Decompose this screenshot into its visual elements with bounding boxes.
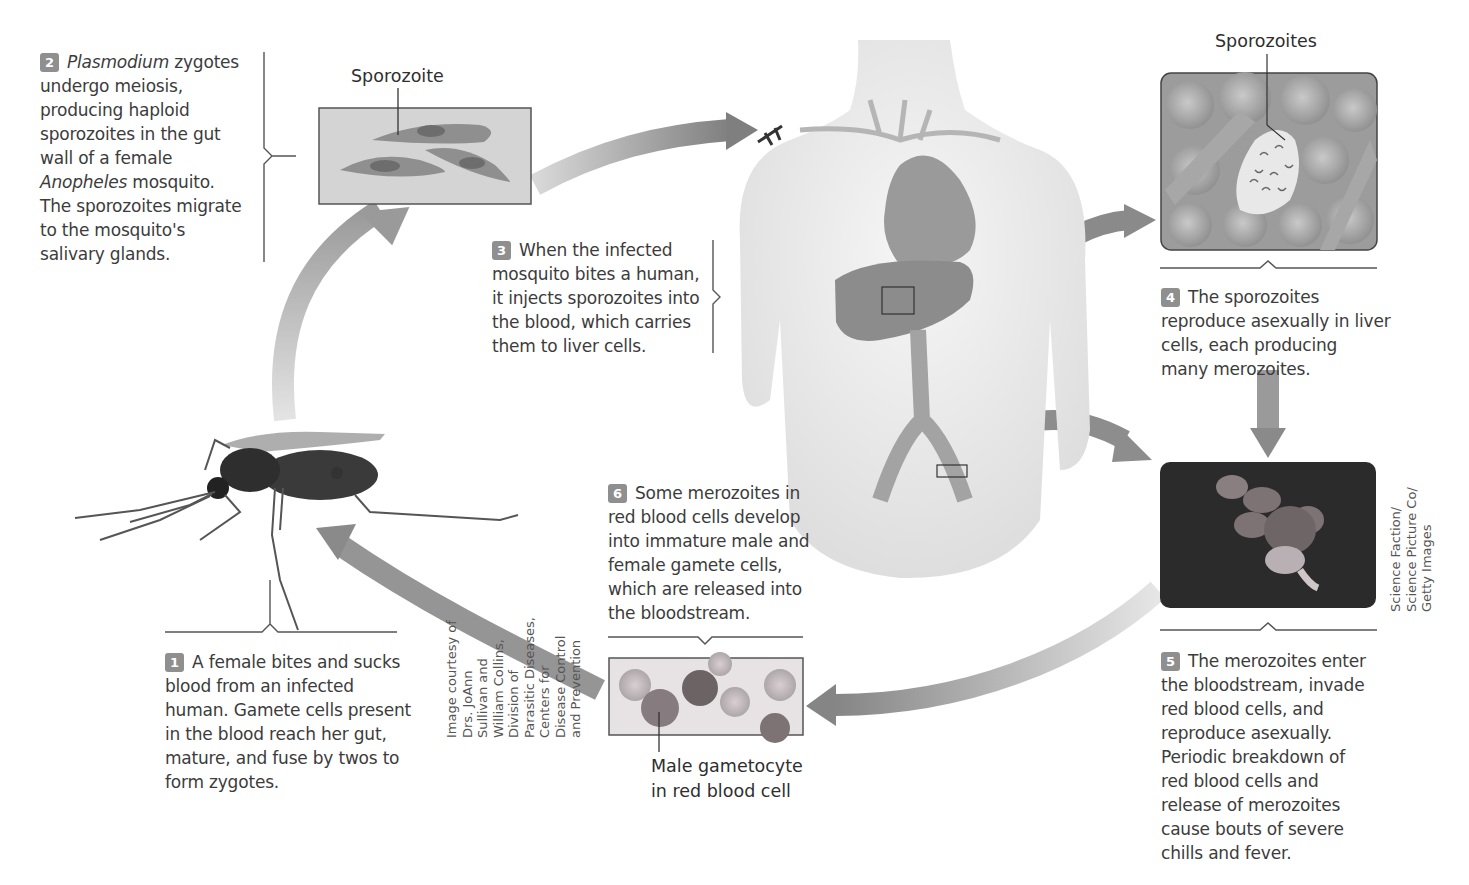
sporozoite-inset bbox=[319, 88, 531, 204]
credit-line: and Prevention bbox=[568, 617, 584, 738]
step-6-line-2: red blood cells develop bbox=[608, 505, 823, 529]
credit-line: Disease Control bbox=[553, 617, 569, 738]
credit-line: Science Picture Co/ bbox=[1404, 487, 1420, 612]
male-gametocyte-label-line2: in red blood cell bbox=[651, 779, 803, 804]
cdc-image-credit: Image courtesy of Drs. JoAnn Sullivan an… bbox=[444, 617, 584, 738]
step-6-description: 6Some merozoites in red blood cells deve… bbox=[608, 481, 823, 625]
small-mosquito-icon bbox=[758, 126, 782, 145]
step-1-line-4: in the blood reach her gut, bbox=[165, 722, 425, 746]
step-5-line-8: cause bouts of severe bbox=[1161, 817, 1391, 841]
getty-image-credit: Science Faction/ Science Picture Co/ Get… bbox=[1388, 487, 1435, 612]
sporozoite-label: Sporozoite bbox=[351, 66, 444, 86]
step-2-line-8: to the mosquito's bbox=[40, 218, 260, 242]
step-2-line-5: wall of a female bbox=[40, 146, 260, 170]
step-2-genus-rest: mosquito. bbox=[127, 172, 215, 192]
step-2-lead-rest: zygotes bbox=[169, 52, 239, 72]
step-6-line-6: the bloodstream. bbox=[608, 601, 823, 625]
credit-line: Centers for bbox=[537, 617, 553, 738]
credit-line: Getty Images bbox=[1419, 487, 1435, 612]
step-2-line-3: producing haploid bbox=[40, 98, 260, 122]
step-5-line-2: the bloodstream, invade bbox=[1161, 673, 1391, 697]
credit-line: William Collins, bbox=[491, 617, 507, 738]
step-5-line-1: 5The merozoites enter bbox=[1161, 649, 1391, 673]
step-3-line-4: the blood, which carries bbox=[492, 310, 712, 334]
credit-line: Sullivan and bbox=[475, 617, 491, 738]
step-2-italic-term: Plasmodium bbox=[67, 52, 169, 72]
step-3-line-1: 3When the infected bbox=[492, 238, 712, 262]
step-3-line-5: them to liver cells. bbox=[492, 334, 712, 358]
step-1-line-1: 1A female bites and sucks bbox=[165, 650, 425, 674]
step-1-badge: 1 bbox=[165, 653, 184, 672]
step-5-line-1-text: The merozoites enter bbox=[1188, 651, 1366, 671]
step-1-line-6: form zygotes. bbox=[165, 770, 425, 794]
step-1-line-5: mature, and fuse by twos to bbox=[165, 746, 425, 770]
step-2-badge: 2 bbox=[40, 53, 59, 72]
step-6-line-3: into immature male and bbox=[608, 529, 823, 553]
step-2-description: 2Plasmodium zygotes undergo meiosis, pro… bbox=[40, 50, 260, 266]
step-4-description: 4The sporozoites reproduce asexually in … bbox=[1161, 285, 1391, 381]
step-3-line-2: mosquito bites a human, bbox=[492, 262, 712, 286]
credit-line: Drs. JoAnn bbox=[460, 617, 476, 738]
step-2-line-9: salivary glands. bbox=[40, 242, 260, 266]
credit-line: Science Faction/ bbox=[1388, 487, 1404, 612]
step-2-line-6: Anopheles mosquito. bbox=[40, 170, 260, 194]
step-2-genus: Anopheles bbox=[40, 172, 127, 192]
credit-line: Parasitic Diseases, bbox=[522, 617, 538, 738]
step-6-line-5: which are released into bbox=[608, 577, 823, 601]
step-1-line-1-text: A female bites and sucks bbox=[192, 652, 400, 672]
step-6-badge: 6 bbox=[608, 484, 627, 503]
step-6-line-1-text: Some merozoites in bbox=[635, 483, 800, 503]
step-5-line-4: reproduce asexually. bbox=[1161, 721, 1391, 745]
step-2-line-7: The sporozoites migrate bbox=[40, 194, 260, 218]
male-gametocyte-label-line1: Male gametocyte bbox=[651, 754, 803, 779]
step-3-badge: 3 bbox=[492, 241, 511, 260]
liver-cells-inset bbox=[1160, 54, 1377, 268]
step-5-line-7: release of merozoites bbox=[1161, 793, 1391, 817]
credit-line: Division of bbox=[506, 617, 522, 738]
gametocyte-blood-smear-inset bbox=[608, 637, 803, 752]
step-4-line-2: reproduce asexually in liver bbox=[1161, 309, 1391, 333]
step-4-line-3: cells, each producing bbox=[1161, 333, 1391, 357]
step-1-line-2: blood from an infected bbox=[165, 674, 425, 698]
step-2-line-2: undergo meiosis, bbox=[40, 74, 260, 98]
step-5-line-6: red blood cells and bbox=[1161, 769, 1391, 793]
step-5-description: 5The merozoites enter the bloodstream, i… bbox=[1161, 649, 1391, 865]
step-6-line-1: 6Some merozoites in bbox=[608, 481, 823, 505]
step-4-badge: 4 bbox=[1161, 288, 1180, 307]
male-gametocyte-label: Male gametocyte in red blood cell bbox=[651, 754, 803, 804]
step-3-description: 3When the infected mosquito bites a huma… bbox=[492, 238, 712, 358]
step-4-line-1-text: The sporozoites bbox=[1188, 287, 1319, 307]
red-blood-cells-photo bbox=[1160, 462, 1377, 630]
step-3-line-3: it injects sporozoites into bbox=[492, 286, 712, 310]
credit-line: Image courtesy of bbox=[444, 617, 460, 738]
step-5-line-3: red blood cells, and bbox=[1161, 697, 1391, 721]
step-1-description: 1A female bites and sucks blood from an … bbox=[165, 650, 425, 794]
step-6-line-4: female gamete cells, bbox=[608, 553, 823, 577]
step-5-line-5: Periodic breakdown of bbox=[1161, 745, 1391, 769]
step-1-line-3: human. Gamete cells present bbox=[165, 698, 425, 722]
mosquito-illustration bbox=[75, 432, 518, 630]
step-4-line-1: 4The sporozoites bbox=[1161, 285, 1391, 309]
step-5-line-9: chills and fever. bbox=[1161, 841, 1391, 865]
step-2-line-1: 2Plasmodium zygotes bbox=[40, 50, 260, 74]
step-3-line-1-text: When the infected bbox=[519, 240, 672, 260]
step-5-badge: 5 bbox=[1161, 652, 1180, 671]
sporozoites-label: Sporozoites bbox=[1215, 31, 1317, 51]
malaria-life-cycle-diagram: Sporozoite Sporozoites Male gametocyte i… bbox=[0, 0, 1469, 885]
step-2-line-4: sporozoites in the gut bbox=[40, 122, 260, 146]
step-4-line-4: many merozoites. bbox=[1161, 357, 1391, 381]
